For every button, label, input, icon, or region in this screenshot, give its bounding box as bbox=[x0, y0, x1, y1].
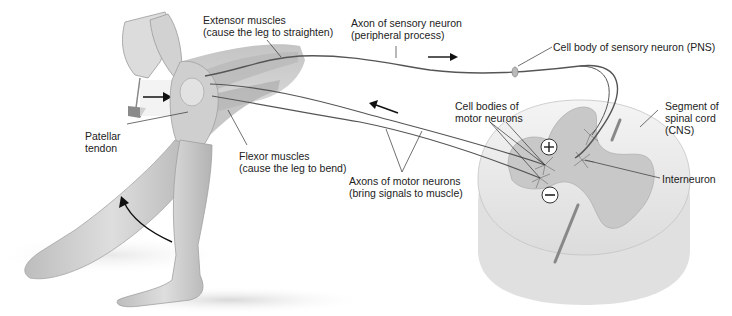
label-sensory-axon: Axon of sensory neuron (peripheral proce… bbox=[351, 17, 462, 41]
label-line: Cell body of sensory neuron (PNS) bbox=[553, 41, 715, 53]
label-line: Patellar bbox=[85, 130, 121, 142]
sensory-signal-arrow-icon bbox=[428, 53, 458, 61]
label-line: (peripheral process) bbox=[351, 29, 462, 41]
label-extensor-muscles: Extensor muscles (cause the leg to strai… bbox=[203, 14, 333, 38]
label-line: (bring signals to muscle) bbox=[349, 187, 463, 199]
excitatory-synapse-icon bbox=[541, 139, 557, 155]
label-line: Axon of sensory neuron bbox=[351, 17, 462, 29]
label-line: tendon bbox=[85, 142, 121, 154]
reflex-arc-diagram: Extensor muscles (cause the leg to strai… bbox=[0, 0, 732, 316]
label-line: Axons of motor neurons bbox=[349, 175, 463, 187]
label-line: Cell bodies of bbox=[455, 100, 523, 112]
label-line: motor neurons bbox=[455, 112, 523, 124]
inhibitory-synapse-icon bbox=[542, 187, 558, 203]
label-line: spinal cord bbox=[665, 112, 719, 124]
spinal-cord-segment bbox=[478, 100, 690, 305]
motor-signal-arrow-icon bbox=[369, 100, 398, 113]
label-sensory-cell-body: Cell body of sensory neuron (PNS) bbox=[553, 41, 715, 53]
label-line: (cause the leg to straighten) bbox=[203, 26, 333, 38]
label-line: (cause the leg to bend) bbox=[239, 162, 346, 174]
label-line: Flexor muscles bbox=[239, 150, 346, 162]
label-patellar-tendon: Patellar tendon bbox=[85, 130, 121, 154]
label-line: Interneuron bbox=[662, 173, 716, 185]
label-motor-axons: Axons of motor neurons (bring signals to… bbox=[349, 175, 463, 199]
label-line: Segment of bbox=[665, 100, 719, 112]
label-interneuron: Interneuron bbox=[662, 173, 716, 185]
patella bbox=[180, 78, 204, 106]
label-line: Extensor muscles bbox=[203, 14, 333, 26]
label-spinal-segment: Segment of spinal cord (CNS) bbox=[665, 100, 719, 136]
label-line: (CNS) bbox=[665, 124, 719, 136]
label-flexor-muscles: Flexor muscles (cause the leg to bend) bbox=[239, 150, 346, 174]
sensory-cell-body bbox=[512, 67, 518, 77]
label-motor-cell-bodies: Cell bodies of motor neurons bbox=[455, 100, 523, 124]
